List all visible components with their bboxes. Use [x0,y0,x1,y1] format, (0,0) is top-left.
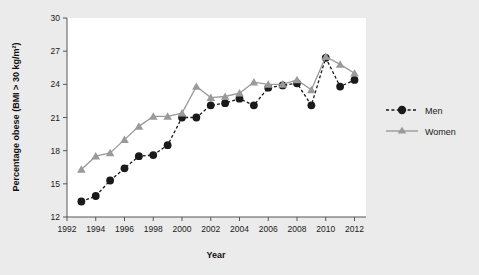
x-tick-label: 1998 [144,224,163,234]
data-point-circle-marker[interactable] [77,198,85,206]
data-point-circle-marker[interactable] [336,83,344,91]
legend-entry-women[interactable]: Women [386,127,456,137]
x-tick-label: 2000 [173,224,192,234]
y-tick-label: 27 [51,46,61,56]
x-tick-label: 2008 [288,224,307,234]
data-point-circle-marker[interactable] [149,151,157,159]
data-point-circle-marker[interactable] [106,177,114,185]
y-axis-ticks: 12151821242730 [51,13,67,222]
chart-legend: Men Women [386,106,456,137]
data-point-circle-marker[interactable] [207,101,215,109]
y-axis-title: Percentage obese (BMI > 30 kg/m²) [11,43,21,192]
data-point-circle-marker[interactable] [351,76,359,84]
legend-women-marker-triangle-icon [398,127,407,134]
x-tick-label: 2012 [345,224,364,234]
figure-container: 12151821242730 1992199419961998200020022… [0,0,479,275]
legend-men-marker-circle-icon [398,106,406,114]
data-point-circle-marker[interactable] [92,192,100,200]
y-tick-label: 18 [51,146,61,156]
y-tick-label: 15 [51,179,61,189]
obesity-trend-line-chart: 12151821242730 1992199419961998200020022… [0,0,479,275]
data-point-circle-marker[interactable] [121,164,129,172]
legend-entry-men[interactable]: Men [386,106,443,116]
x-tick-label: 1994 [86,224,105,234]
x-axis-ticks: 1992199419961998200020022004200620082010… [58,217,365,234]
data-point-circle-marker[interactable] [221,99,229,107]
plot-area-background [67,18,366,217]
x-tick-label: 2006 [259,224,278,234]
data-point-circle-marker[interactable] [135,152,143,160]
y-tick-label: 12 [51,212,61,222]
data-point-circle-marker[interactable] [192,114,200,122]
x-axis-title: Year [206,250,226,260]
x-tick-label: 1992 [58,224,77,234]
x-tick-label: 2002 [201,224,220,234]
data-point-circle-marker[interactable] [164,141,172,149]
x-tick-label: 1996 [115,224,134,234]
x-tick-label: 2010 [316,224,335,234]
y-tick-label: 21 [51,113,61,123]
data-point-circle-marker[interactable] [307,101,315,109]
y-tick-label: 24 [51,79,61,89]
y-tick-label: 30 [51,13,61,23]
legend-women-label: Women [425,127,456,137]
data-point-circle-marker[interactable] [250,101,258,109]
x-tick-label: 2004 [230,224,249,234]
legend-men-label: Men [425,106,443,116]
